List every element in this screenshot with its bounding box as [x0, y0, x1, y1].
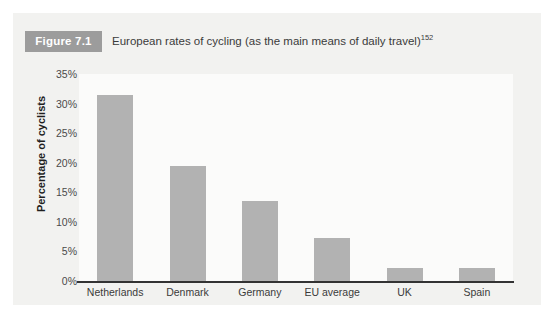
figure-container: Figure 7.1 European rates of cycling (as…	[0, 0, 554, 322]
figure-number-badge: Figure 7.1	[25, 31, 102, 52]
y-axis-tick-label: 20%	[33, 157, 77, 169]
bar	[170, 166, 206, 281]
x-axis-tick-label: Netherlands	[79, 286, 151, 298]
x-axis-tick-label: Germany	[224, 286, 296, 298]
figure-panel: Figure 7.1 European rates of cycling (as…	[13, 13, 541, 305]
x-axis-tick-label: Spain	[441, 286, 513, 298]
y-axis-tick-label: 30%	[33, 98, 77, 110]
chart-plot-area: Percentage of cyclists 0%5%10%15%20%25%3…	[13, 60, 541, 305]
x-axis-tick-label: Denmark	[151, 286, 223, 298]
y-axis-tick-label: 15%	[33, 186, 77, 198]
figure-caption-row: Figure 7.1 European rates of cycling (as…	[13, 31, 541, 53]
y-axis-tick-label: 25%	[33, 127, 77, 139]
bar	[314, 238, 350, 281]
figure-caption: European rates of cycling (as the main m…	[112, 31, 433, 52]
figure-caption-text: European rates of cycling (as the main m…	[112, 35, 421, 47]
y-axis-tick-label: 5%	[33, 245, 77, 257]
y-axis-tick-label: 35%	[33, 68, 77, 80]
bar	[242, 201, 278, 281]
bar-series	[79, 74, 513, 281]
x-axis-tick-labels: NetherlandsDenmarkGermanyEU averageUKSpa…	[79, 286, 513, 306]
y-axis-tick-label: 0%	[33, 275, 77, 287]
figure-caption-footnote-marker: 152	[421, 33, 434, 42]
x-axis-tick-label: UK	[368, 286, 440, 298]
x-axis-line	[77, 281, 514, 283]
bar	[459, 268, 495, 281]
bar	[97, 95, 133, 281]
y-axis-tick-label: 10%	[33, 216, 77, 228]
x-axis-tick-label: EU average	[296, 286, 368, 298]
bar	[387, 268, 423, 281]
y-axis-tick-labels: 0%5%10%15%20%25%30%35%	[33, 74, 77, 281]
